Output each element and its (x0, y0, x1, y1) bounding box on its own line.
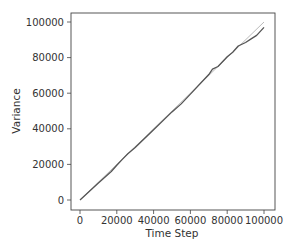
x-axis-ticks: 020000400006000080000100000 (77, 210, 283, 226)
plot-lines (80, 22, 264, 200)
empirical-variance-line (80, 27, 264, 200)
x-tick-label: 40000 (138, 215, 170, 226)
y-tick-label: 80000 (32, 52, 64, 63)
y-tick-label: 40000 (32, 123, 64, 134)
x-tick-label: 60000 (174, 215, 206, 226)
y-tick-label: 20000 (32, 159, 64, 170)
y-tick-label: 0 (58, 195, 64, 206)
y-tick-label: 60000 (32, 88, 64, 99)
y-axis-label: Variance (10, 88, 22, 133)
x-tick-label: 20000 (101, 215, 133, 226)
x-axis-label: Time Step (145, 227, 199, 239)
line-chart: 020000400006000080000100000 020000400006… (0, 0, 294, 249)
x-tick-label: 100000 (245, 215, 283, 226)
x-tick-label: 0 (77, 215, 83, 226)
y-tick-label: 100000 (26, 17, 64, 28)
x-tick-label: 80000 (211, 215, 243, 226)
y-axis-ticks: 020000400006000080000100000 (26, 17, 71, 206)
